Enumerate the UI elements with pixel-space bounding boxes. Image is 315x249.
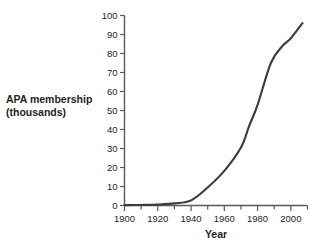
y-tick-label: 80: [107, 48, 118, 59]
y-tick-label: 40: [107, 124, 118, 135]
x-axis-tick-group: 190019201940196019802000: [114, 206, 308, 224]
x-tick-label: 1920: [147, 213, 168, 224]
x-tick-label: 1980: [247, 213, 268, 224]
x-tick-label: 1960: [214, 213, 235, 224]
x-axis-title: Year: [124, 228, 308, 240]
y-tick-label: 0: [112, 200, 117, 211]
y-axis-title-line1: APA membership: [6, 93, 92, 105]
y-tick-label: 100: [102, 10, 118, 21]
y-tick-label: 90: [107, 29, 118, 40]
y-tick-label: 20: [107, 162, 118, 173]
series-line-apa-membership: [125, 23, 303, 205]
x-tick-label: 1940: [180, 213, 201, 224]
y-tick-label: 70: [107, 67, 118, 78]
y-axis-title-line2: (thousands): [6, 106, 66, 118]
y-tick-label: 30: [107, 143, 118, 154]
y-axis-title: APA membership(thousands): [6, 93, 110, 118]
line-chart-plot: 0102030405060708090100 19001920194019601…: [0, 0, 315, 249]
x-tick-label: 2000: [280, 213, 301, 224]
chart-container: APA membership(thousands) Year 010203040…: [0, 0, 315, 249]
x-tick-label: 1900: [114, 213, 135, 224]
y-tick-label: 10: [107, 181, 118, 192]
